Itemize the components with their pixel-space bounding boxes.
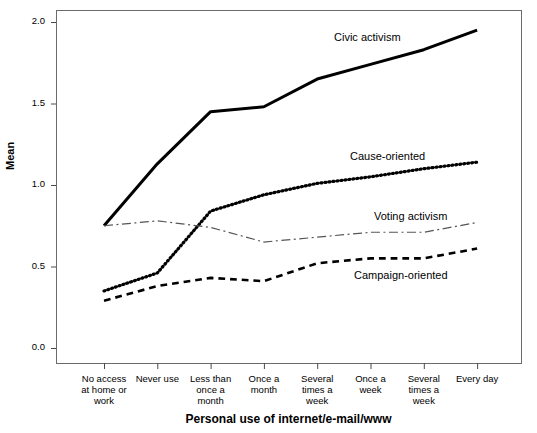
x-tick-label: Once amonth — [237, 373, 291, 395]
x-tick-label-line: Several — [290, 373, 344, 384]
x-tick-label-line: times a — [290, 384, 344, 395]
x-tick-label-line: week — [344, 384, 398, 395]
x-tick-label: Severaltimes aweek — [397, 373, 451, 406]
series-line-voting-activism — [104, 221, 477, 242]
x-tick-label: No accessat home orwork — [77, 373, 131, 406]
x-tick-label-line: Every day — [450, 373, 504, 384]
x-tick-label-line: Once a — [237, 373, 291, 384]
x-tick-label-line: times a — [397, 384, 451, 395]
x-tick-label-line: No access — [77, 373, 131, 384]
plot-frame — [57, 11, 522, 364]
series-label-voting-activism: Voting activism — [374, 210, 447, 222]
x-tick-label-line: Never use — [130, 373, 184, 384]
x-tick-label-line: Once a — [344, 373, 398, 384]
x-tick-label: Severaltimes aweek — [290, 373, 344, 406]
y-tick-label: 1.5 — [11, 98, 45, 108]
x-tick-label-line: Less than — [184, 373, 238, 384]
x-tick-label-line: once a — [184, 384, 238, 395]
y-tick-label: 2.0 — [11, 16, 45, 26]
x-tick-label: Once aweek — [344, 373, 398, 395]
x-tick-label-line: work — [77, 395, 131, 406]
y-tick-label: 0.5 — [11, 261, 45, 271]
y-tick-label: 0.0 — [11, 342, 45, 352]
x-tick-label: Less thanonce amonth — [184, 373, 238, 406]
series-label-civic-activism: Civic activism — [334, 31, 401, 43]
x-tick-label: Never use — [130, 373, 184, 384]
x-tick-label-line: week — [397, 395, 451, 406]
plot-canvas — [0, 0, 537, 433]
x-tick-label-line: Several — [397, 373, 451, 384]
y-axis-title: Mean — [4, 154, 16, 170]
y-tick-label: 1.0 — [11, 179, 45, 189]
x-tick-label-line: week — [290, 395, 344, 406]
x-tick-label-line: month — [237, 384, 291, 395]
x-tick-label: Every day — [450, 373, 504, 384]
chart-figure: Mean Personal use of internet/e-mail/www… — [0, 0, 537, 433]
series-line-civic-activism — [104, 30, 477, 226]
x-tick-label-line: month — [184, 395, 238, 406]
x-tick-label-line: at home or — [77, 384, 131, 395]
series-label-campaign-oriented: Campaign-oriented — [354, 269, 448, 281]
x-axis-title: Personal use of internet/e-mail/www — [56, 412, 521, 426]
series-label-cause-oriented: Cause-oriented — [350, 150, 425, 162]
